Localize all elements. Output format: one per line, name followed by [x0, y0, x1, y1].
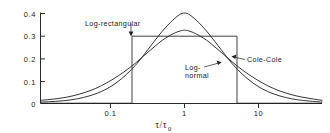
annotation-log-rectangular-label: Log-rectangular — [85, 19, 141, 28]
x-axis-title-main: τ/τ — [155, 120, 167, 130]
y-tick-label-0.3: 0.3 — [24, 32, 36, 41]
annotation-cole-cole-label: Cole-Cole — [247, 55, 282, 64]
x-axis-title-subscript: 0 — [168, 125, 171, 132]
x-tick-label-10: 10 — [254, 109, 264, 118]
x-tick-labels: 0.1 1 10 — [104, 109, 263, 118]
distribution-function-chart: 0.4 0.3 0.2 0.1 0 0.1 1 10 τ/τ 0 — [0, 0, 330, 133]
y-tick-marks — [41, 14, 46, 82]
annotation-log-rectangular: Log-rectangular — [85, 19, 141, 36]
x-tick-marks — [111, 104, 259, 109]
y-tick-label-0.1: 0.1 — [24, 78, 36, 87]
y-tick-labels: 0.4 0.3 0.2 0.1 0 — [24, 10, 36, 109]
series-cole-cole — [41, 30, 323, 100]
annotation-log-normal-arrow — [217, 60, 222, 65]
annotation-cole-cole: Cole-Cole — [232, 54, 283, 64]
figure-container: 0.4 0.3 0.2 0.1 0 0.1 1 10 τ/τ 0 — [0, 0, 330, 133]
x-tick-label-1: 1 — [182, 109, 187, 118]
annotation-log-normal: Log- normal — [185, 60, 222, 80]
x-axis-title: τ/τ 0 — [155, 120, 171, 132]
annotation-log-rectangular-arrow — [129, 32, 134, 37]
x-tick-label-0.1: 0.1 — [104, 109, 116, 118]
annotation-log-normal-leader — [204, 63, 219, 67]
annotation-cole-cole-arrow — [232, 54, 237, 59]
y-tick-label-0: 0 — [31, 100, 36, 109]
annotation-log-normal-label-line2: normal — [185, 71, 209, 80]
y-tick-label-0.2: 0.2 — [24, 55, 36, 64]
y-tick-label-0.4: 0.4 — [24, 10, 36, 19]
